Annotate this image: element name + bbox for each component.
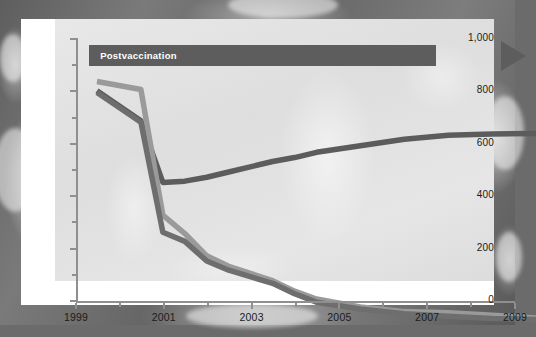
x-tick: [470, 303, 472, 307]
x-tick-label: 2009: [503, 311, 527, 323]
x-tick: [382, 303, 384, 307]
y-tick-label: 800: [448, 84, 494, 95]
y-tick-label: 400: [448, 189, 494, 200]
y-tick: [70, 248, 77, 250]
y-tick: [72, 117, 77, 119]
y-tick: [72, 274, 77, 276]
chart-panel: Postvaccination 02004006008001,000 19992…: [21, 19, 494, 305]
x-tick: [207, 303, 209, 307]
y-tick: [70, 300, 77, 302]
x-tick: [163, 303, 165, 309]
y-tick: [70, 195, 77, 197]
y-tick: [70, 143, 77, 145]
x-tick: [295, 303, 297, 307]
y-tick-label: 1,000: [448, 32, 494, 43]
y-tick: [70, 90, 77, 92]
y-tick-label: 200: [448, 242, 494, 253]
x-tick: [338, 303, 340, 309]
y-tick: [72, 221, 77, 223]
x-tick-label: 2003: [240, 311, 264, 323]
x-tick: [514, 303, 516, 309]
x-tick-label: 2007: [415, 311, 439, 323]
x-tick: [426, 303, 428, 309]
y-tick: [72, 169, 77, 171]
x-tick-label: 1999: [64, 311, 88, 323]
x-tick: [251, 303, 253, 309]
y-tick: [72, 64, 77, 66]
y-tick: [70, 38, 77, 40]
x-tick: [75, 303, 77, 309]
y-tick-label: 600: [448, 137, 494, 148]
x-tick-label: 2001: [152, 311, 176, 323]
x-tick-label: 2005: [327, 311, 351, 323]
x-tick: [119, 303, 121, 307]
series-lines: [21, 19, 536, 337]
